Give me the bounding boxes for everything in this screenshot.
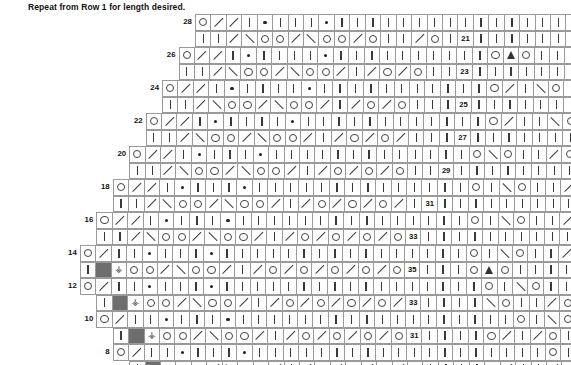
chart-cell xyxy=(113,196,129,213)
chart-row: V16 xyxy=(96,212,571,229)
chart-cell xyxy=(255,80,271,97)
yarn-over-symbol xyxy=(364,332,372,340)
k2tog-symbol xyxy=(301,298,310,307)
chart-cell xyxy=(468,196,484,213)
chart-cell xyxy=(439,130,455,147)
chart-cell xyxy=(422,361,438,365)
knit-symbol xyxy=(289,315,290,324)
chart-cell xyxy=(226,31,242,48)
chart-cell xyxy=(374,311,390,328)
chart-cell xyxy=(500,146,516,163)
k2tog-symbol xyxy=(548,298,557,307)
chart-cell xyxy=(488,31,504,48)
knit-symbol xyxy=(417,100,418,109)
row-number-label: 24 xyxy=(150,82,162,93)
purl-symbol xyxy=(165,219,168,222)
knit-symbol xyxy=(465,18,466,27)
knit-symbol xyxy=(430,166,431,175)
chart-cell xyxy=(161,113,177,130)
chart-cell: ⚶ xyxy=(127,295,143,312)
knit-symbol xyxy=(350,249,351,258)
chart-cell xyxy=(513,311,529,328)
knit-symbol xyxy=(458,265,459,274)
filled-cell xyxy=(128,328,144,345)
knit-symbol xyxy=(383,183,384,192)
knit-symbol xyxy=(337,150,338,159)
chart-cell xyxy=(424,80,440,97)
chart-cell xyxy=(288,14,304,31)
chart-cell xyxy=(561,146,571,163)
k2tog-symbol xyxy=(132,183,141,192)
knit-symbol xyxy=(242,265,243,274)
knit-symbol xyxy=(229,150,230,159)
chart-cell xyxy=(96,229,112,246)
chart-cell xyxy=(546,146,562,163)
purl-symbol xyxy=(226,318,229,321)
k2tog-symbol xyxy=(398,67,407,76)
chart-cell xyxy=(375,328,391,345)
knit-symbol xyxy=(428,232,429,241)
knit-symbol xyxy=(490,315,491,324)
knit-symbol xyxy=(310,51,311,60)
chart-cell xyxy=(342,262,358,279)
chart-cell xyxy=(498,212,514,229)
knit-symbol xyxy=(460,183,461,192)
yarn-over-symbol xyxy=(517,216,525,224)
chart-cell xyxy=(405,212,421,229)
knit-symbol xyxy=(450,18,451,27)
yarn-over-symbol xyxy=(502,299,510,307)
knit-symbol xyxy=(537,348,538,357)
chart-cell xyxy=(481,262,497,279)
knit-symbol xyxy=(213,348,214,357)
k2tog-symbol xyxy=(194,331,203,340)
knit-symbol xyxy=(449,51,450,60)
chart-cell xyxy=(472,64,488,81)
chart-cell xyxy=(174,179,190,196)
knit-symbol xyxy=(458,282,459,291)
chart-cell xyxy=(516,130,532,147)
chart-cell xyxy=(498,229,514,246)
yarn-over-symbol xyxy=(489,117,497,125)
chart-cell xyxy=(513,295,529,312)
k2tog-symbol xyxy=(335,133,344,142)
chart-cell xyxy=(543,262,559,279)
k2tog-symbol xyxy=(239,298,248,307)
knit-symbol xyxy=(464,51,465,60)
k2tog-symbol xyxy=(147,183,156,192)
chart-cell xyxy=(421,328,437,345)
chart-cell xyxy=(450,278,466,295)
chart-cell xyxy=(177,80,193,97)
knit-symbol xyxy=(538,150,539,159)
chart-cell xyxy=(503,64,519,81)
knit-symbol xyxy=(475,348,476,357)
yarn-over-symbol xyxy=(348,200,356,208)
chart-cell xyxy=(374,295,390,312)
knit-symbol xyxy=(384,150,385,159)
chart-cell xyxy=(543,278,559,295)
filled-cell xyxy=(112,295,128,312)
chart-cell xyxy=(560,328,571,345)
knit-symbol xyxy=(388,18,389,27)
chart-cell xyxy=(142,245,158,262)
chart-cell xyxy=(334,14,350,31)
chart-cell xyxy=(483,179,499,196)
chart-cell xyxy=(362,113,378,130)
chart-cell xyxy=(253,146,269,163)
chart-cell xyxy=(146,130,162,147)
chart-cell xyxy=(144,179,160,196)
chart-cell xyxy=(531,146,547,163)
knit-symbol xyxy=(181,315,182,324)
knit-symbol xyxy=(557,67,558,76)
k2tog-symbol xyxy=(131,216,140,225)
inline-row-number: 29 xyxy=(438,163,454,180)
chart-cell xyxy=(280,278,296,295)
chart-cell xyxy=(144,196,160,213)
k2tog-symbol xyxy=(318,166,327,175)
chart-cell xyxy=(205,196,221,213)
chart-cell xyxy=(158,229,174,246)
chart-cell xyxy=(303,14,319,31)
knit-symbol xyxy=(356,51,357,60)
chart-cell xyxy=(328,295,344,312)
inline-row-number: 31 xyxy=(406,328,422,345)
chart-cell xyxy=(172,262,188,279)
